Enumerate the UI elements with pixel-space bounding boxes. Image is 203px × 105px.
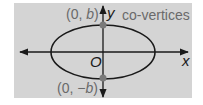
- origin-label: O: [90, 53, 102, 70]
- bottom-co-vertex-label: (0, −b): [57, 80, 98, 96]
- co-vertices-title: co-vertices: [122, 7, 190, 23]
- bottom-co-vertex-point: [100, 75, 107, 82]
- top-co-vertex-point: [100, 22, 107, 29]
- ellipse-diagram: (0, b) y co-vertices O x (0, −b): [0, 0, 203, 105]
- top-co-vertex-label: (0, b): [66, 6, 99, 22]
- x-axis-label: x: [181, 52, 190, 69]
